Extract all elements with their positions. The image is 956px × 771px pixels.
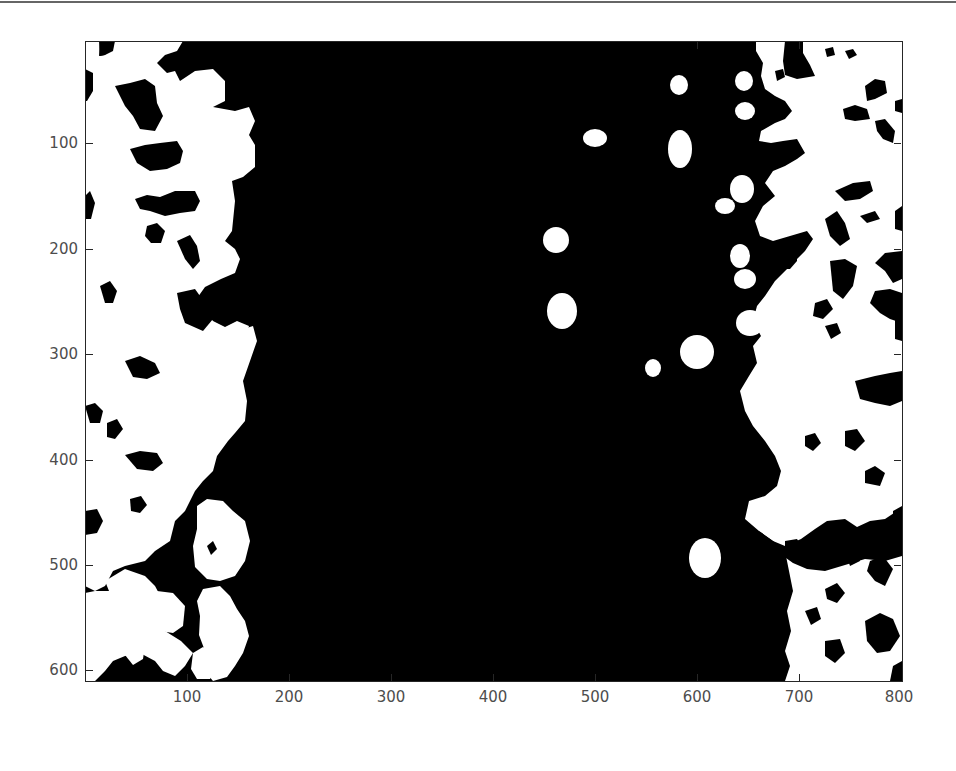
y-tick-label: 400 [30,452,78,468]
y-tick-mark [86,565,93,566]
y-tick-mark-right [894,565,901,566]
x-tick-label: 200 [259,688,319,706]
y-tick-label: 100 [30,135,78,151]
y-tick-label: 600 [30,662,78,678]
x-tick-mark [187,674,188,681]
top-rule [0,1,956,3]
y-tick-mark-right [894,249,901,250]
x-tick-label: 300 [361,688,421,706]
y-tick-mark [86,249,93,250]
y-tick-label: 300 [30,346,78,362]
x-tick-mark [799,674,800,681]
x-tick-label: 400 [463,688,523,706]
binary-image [85,41,902,681]
y-tick-mark [86,354,93,355]
y-tick-mark [86,460,93,461]
x-tick-label: 700 [769,688,829,706]
x-tick-mark [493,674,494,681]
x-tick-mark-top [799,42,800,49]
x-tick-mark [289,674,290,681]
x-tick-label: 800 [869,688,929,706]
y-tick-label: 200 [30,241,78,257]
x-tick-mark [391,674,392,681]
x-tick-mark [697,674,698,681]
y-tick-mark [86,670,93,671]
y-tick-mark-right [894,143,901,144]
x-tick-label: 500 [565,688,625,706]
x-tick-mark-top [697,42,698,49]
x-tick-label: 100 [157,688,217,706]
y-tick-mark-right [894,460,901,461]
x-tick-label: 600 [667,688,727,706]
y-tick-mark-right [894,354,901,355]
x-tick-mark [595,674,596,681]
y-tick-label: 500 [30,557,78,573]
image-axes [85,41,902,681]
y-tick-mark [86,143,93,144]
